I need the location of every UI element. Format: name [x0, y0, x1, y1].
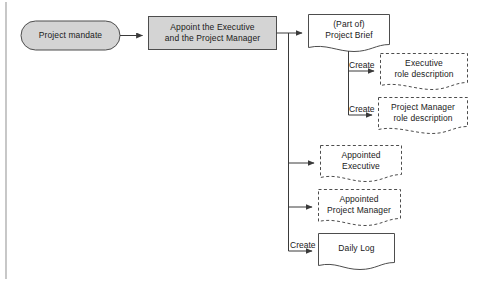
node-project-brief [309, 15, 390, 52]
edge-label-create-executive-role-description: Create [349, 60, 375, 70]
node-appointed-executive [321, 146, 402, 182]
node-executive-role-description [381, 54, 468, 90]
edge-label-create-daily-log: Create [290, 240, 316, 250]
diagram-graphics [0, 0, 485, 285]
edge-label-create-project-manager-role-description: Create [349, 104, 375, 114]
node-daily-log [319, 234, 395, 270]
node-project-mandate [21, 21, 120, 50]
node-appoint-executive-and-project-manager [149, 17, 277, 50]
node-project-manager-role-description [379, 98, 468, 134]
diagram-canvas: Project mandate Appoint the Executive an… [0, 0, 485, 285]
node-appointed-project-manager [319, 190, 401, 226]
